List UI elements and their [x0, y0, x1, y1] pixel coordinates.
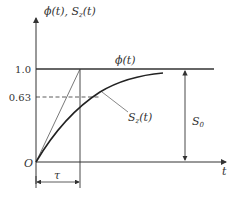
tau-label: τ [54, 169, 61, 182]
sz-label: Sz(t) [128, 111, 152, 125]
y-axis-label: ϕ(t), Sz(t) [44, 5, 96, 19]
x-axis-label: t [222, 165, 227, 178]
tick-1: 1.0 [15, 64, 31, 75]
tangent-line [36, 69, 80, 162]
s0-label: S0 [192, 115, 205, 129]
sz-leader-line [102, 92, 128, 112]
phi-label: ϕ(t) [115, 54, 136, 67]
tick-063: 0.63 [9, 92, 31, 103]
response-diagram: ϕ(t), Sz(t) 1.0 0.63 O ϕ(t) Sz(t) S0 τ t [0, 0, 237, 200]
origin-label: O [24, 157, 33, 170]
